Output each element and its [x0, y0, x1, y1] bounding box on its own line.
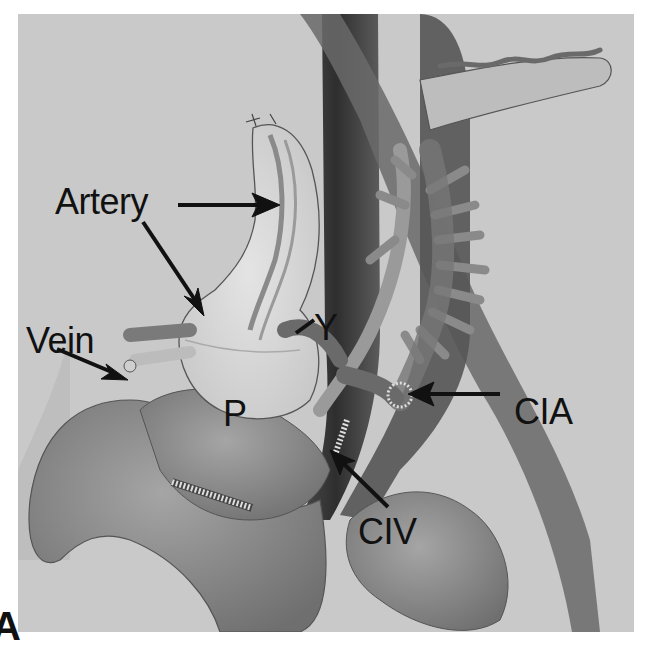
label-y-graft: Y	[314, 310, 338, 346]
illustration-panel: Artery Vein Y P CIA CIV	[18, 14, 634, 632]
label-vein: Vein	[26, 323, 94, 359]
label-cia: CIA	[514, 394, 573, 430]
label-pancreas: P	[223, 396, 247, 432]
pancreas-transplant-figure: Artery Vein Y P CIA CIV A	[0, 0, 654, 649]
label-artery: Artery	[55, 184, 148, 220]
panel-letter: A	[0, 604, 21, 649]
label-civ: CIV	[358, 514, 417, 550]
